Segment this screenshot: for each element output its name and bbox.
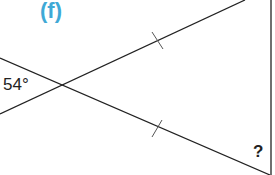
unknown-angle-label: ?: [253, 142, 263, 162]
line-upper-transversal: [0, 0, 245, 114]
tick-mark-lower: [152, 120, 162, 137]
line-lower-transversal: [0, 58, 270, 175]
part-label: (f): [40, 0, 62, 24]
angle-label-54: 54°: [3, 75, 29, 95]
tick-mark-upper: [152, 32, 163, 49]
diagram-canvas: [0, 0, 275, 175]
